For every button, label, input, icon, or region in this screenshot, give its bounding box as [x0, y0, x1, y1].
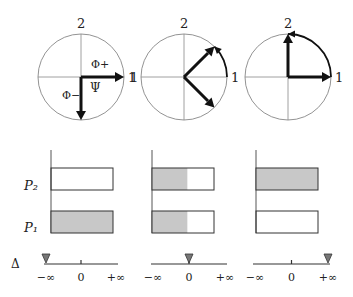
bloch-circle: 211: [130, 16, 239, 120]
axis-label-2: 2: [77, 16, 85, 31]
probability-bars: [256, 150, 318, 233]
delta-slider: −∞0+∞: [37, 254, 125, 284]
state-vector-2-arrowhead-icon: [322, 72, 331, 82]
delta-marker-icon: [42, 254, 50, 263]
bar-fill-p2: [256, 168, 318, 190]
bloch-circle: 21: [245, 16, 343, 120]
delta-tick-label: +∞: [319, 271, 337, 284]
panel-3: 21−∞0+∞: [245, 16, 343, 284]
delta-slider: −∞0+∞: [246, 254, 337, 284]
state-vector-1-arrowhead-icon: [115, 72, 124, 82]
panel-2: 211−∞0+∞: [130, 16, 239, 284]
rotation-arc: [288, 34, 331, 77]
phi-plus-label: Φ+: [91, 58, 109, 71]
delta-tick-label: +∞: [216, 271, 234, 284]
phi-minus-label: Φ−: [62, 89, 80, 102]
bar-p1: [256, 211, 318, 233]
panels: 21Φ+Φ−Ψ−∞0+∞211−∞0+∞21−∞0+∞: [37, 16, 343, 284]
probability-bars: [51, 150, 113, 233]
probability-bars: [152, 150, 214, 233]
psi-label: Ψ: [90, 81, 101, 95]
bar-fill-p2: [152, 168, 187, 190]
delta-tick-label: −∞: [144, 271, 162, 284]
delta-label: Δ: [11, 257, 20, 271]
delta-tick-label: 0: [288, 271, 295, 284]
panel-1: 21Φ+Φ−Ψ−∞0+∞: [37, 16, 136, 284]
bar-fill-p1: [152, 211, 187, 233]
axis-label-1: 1: [335, 70, 343, 85]
delta-tick-label: −∞: [37, 271, 55, 284]
delta-marker-icon: [324, 254, 332, 263]
p1-label: P₁: [23, 220, 38, 235]
bar-p2: [51, 168, 113, 190]
delta-tick-label: 0: [78, 271, 85, 284]
delta-tick-label: 0: [186, 271, 193, 284]
delta-tick-label: −∞: [246, 271, 264, 284]
delta-slider: −∞0+∞: [144, 254, 234, 284]
delta-tick-label: +∞: [107, 271, 125, 284]
axis-label-2: 2: [180, 16, 188, 31]
axis-label-1: 1: [231, 70, 239, 85]
delta-marker-icon: [185, 254, 193, 263]
state-vector-1-shaft: [184, 53, 208, 77]
state-vector-2-shaft: [184, 77, 208, 101]
axis-label-1-left: 1: [130, 70, 138, 85]
bar-fill-p1: [51, 211, 113, 233]
state-vector-2-arrowhead-icon: [76, 111, 86, 120]
bloch-circle: 21Φ+Φ−Ψ: [38, 16, 136, 120]
two-level-state-diagram: P₂ P₁ Δ 21Φ+Φ−Ψ−∞0+∞211−∞0+∞21−∞0+∞: [0, 0, 353, 297]
p2-label: P₂: [23, 178, 38, 193]
axis-label-2: 2: [284, 16, 292, 31]
